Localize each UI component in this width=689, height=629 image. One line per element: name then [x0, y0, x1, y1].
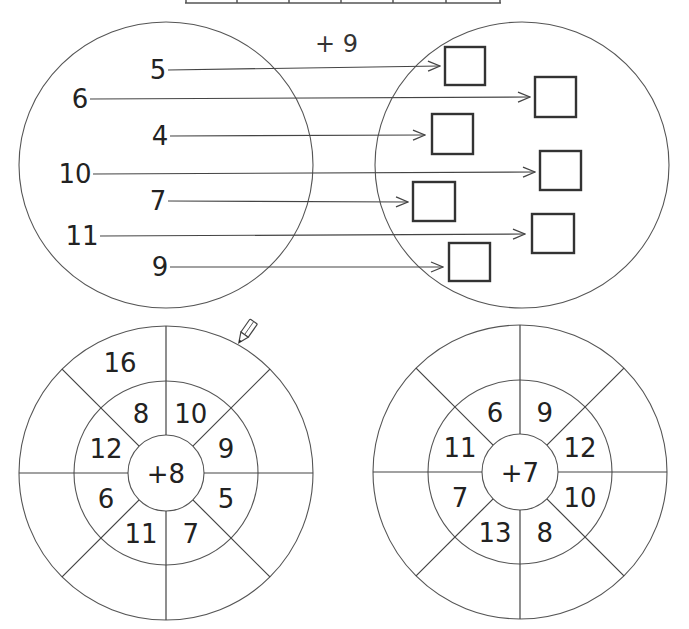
- inner-number: 6: [487, 398, 504, 428]
- answer-box[interactable]: [449, 243, 490, 281]
- mapping-row: 7: [150, 182, 455, 221]
- inner-number: 9: [537, 398, 554, 428]
- input-number: 9: [152, 252, 169, 282]
- arrow: [168, 66, 440, 70]
- answer-box[interactable]: [445, 47, 485, 85]
- addition-wheel-plus-8: +88109571161216: [19, 326, 313, 620]
- mapping-row: 11: [65, 214, 574, 253]
- inner-number: 6: [98, 484, 115, 514]
- inner-number: 7: [452, 483, 469, 513]
- inner-number: 8: [133, 399, 150, 429]
- input-number: 6: [72, 84, 89, 114]
- arrow: [93, 172, 535, 174]
- operation-label: + 9: [315, 30, 358, 58]
- mapping-row: 9: [152, 243, 490, 282]
- inner-number: 7: [183, 519, 200, 549]
- center-operation: +7: [501, 458, 539, 488]
- inner-number: 12: [564, 433, 597, 463]
- arrow: [100, 234, 525, 236]
- arrow: [168, 201, 408, 202]
- answer-box[interactable]: [535, 77, 576, 117]
- output-set-circle: [375, 22, 669, 308]
- answer-box[interactable]: [432, 114, 473, 154]
- outer-answer[interactable]: 16: [104, 348, 137, 378]
- inner-number: 8: [537, 518, 554, 548]
- inner-number: 10: [174, 399, 207, 429]
- arrow: [170, 135, 425, 136]
- addition-wheel-plus-7: +7691210813711: [373, 325, 667, 619]
- answer-box[interactable]: [540, 151, 581, 190]
- input-number: 11: [65, 221, 98, 251]
- answer-box[interactable]: [532, 214, 574, 253]
- inner-number: 12: [89, 434, 122, 464]
- inner-number: 13: [479, 518, 512, 548]
- inner-number: 11: [443, 433, 476, 463]
- pencil-icon: [235, 319, 257, 345]
- inner-number: 10: [564, 483, 597, 513]
- mapping-row: 6: [72, 77, 576, 117]
- worksheet-canvas: + 9 564107119 +88109571161216 +769121081…: [0, 0, 689, 629]
- input-number: 10: [58, 159, 91, 189]
- inner-number: 5: [218, 484, 235, 514]
- inner-number: 11: [125, 519, 158, 549]
- inner-number: 9: [218, 434, 235, 464]
- center-operation: +8: [147, 459, 185, 489]
- mapping-exercise: + 9 564107119: [19, 22, 669, 308]
- input-number: 5: [150, 55, 167, 85]
- mapping-row: 10: [58, 151, 581, 190]
- input-number: 4: [152, 121, 169, 151]
- input-number: 7: [150, 186, 167, 216]
- answer-box[interactable]: [413, 182, 455, 221]
- arrow: [90, 97, 530, 99]
- header-table: [185, 0, 501, 3]
